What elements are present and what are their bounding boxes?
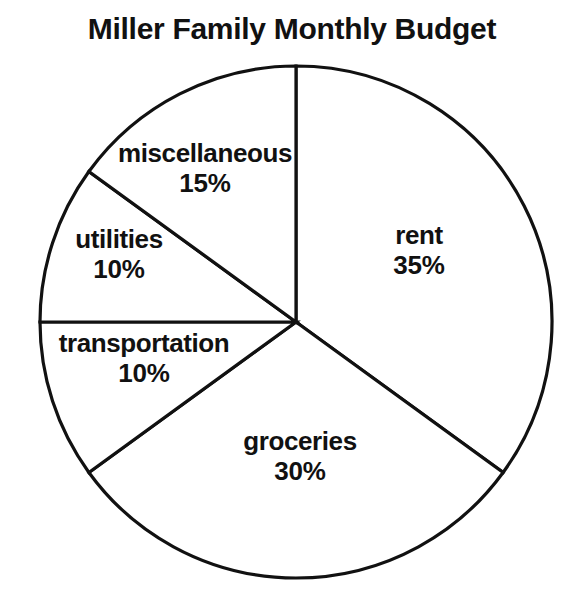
pie-chart-graphic <box>0 0 584 608</box>
pie-chart-figure: Miller Family Monthly Budget rent 35% gr… <box>0 0 584 608</box>
pie-slice-group <box>40 66 552 578</box>
